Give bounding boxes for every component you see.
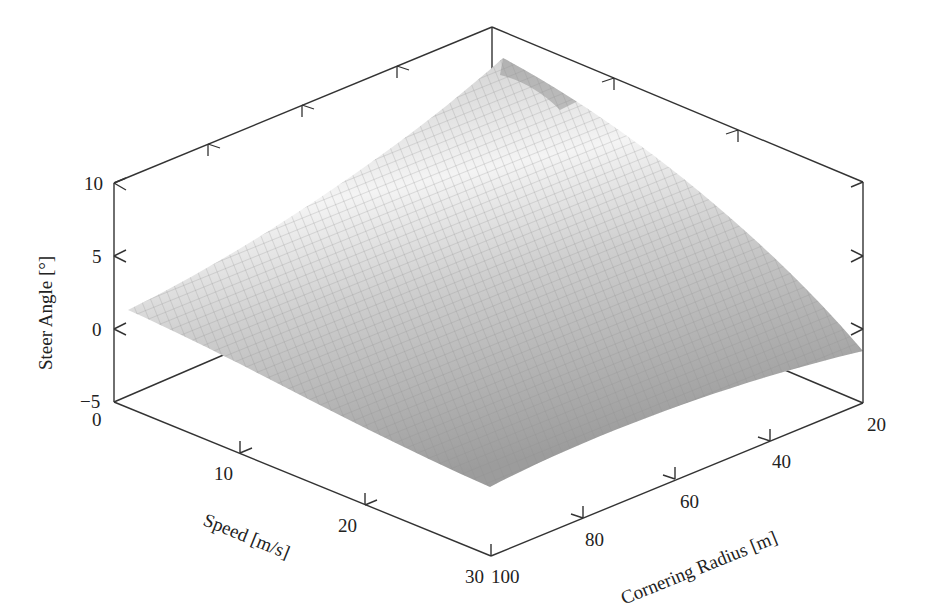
x-tick-10: 10	[214, 464, 233, 483]
y-tick-100: 100	[491, 567, 520, 586]
z-tick-0: 0	[92, 320, 102, 339]
z-tick-10: 10	[84, 174, 103, 193]
y-tick-20: 20	[867, 415, 886, 434]
y-tick-80: 80	[585, 530, 604, 549]
steer-angle-surface	[100, 40, 880, 500]
z-axis	[114, 178, 126, 402]
y-tick-40: 40	[772, 452, 791, 471]
z-axis-title: Steer Angle [°]	[36, 256, 55, 370]
x-tick-30: 30	[465, 567, 484, 586]
z-tick-5: 5	[92, 247, 102, 266]
x-tick-0: 0	[92, 410, 102, 429]
surface-plot	[0, 0, 929, 616]
x-tick-20: 20	[338, 516, 357, 535]
y-tick-60: 60	[680, 492, 699, 511]
right-vertical-edge	[851, 182, 863, 403]
